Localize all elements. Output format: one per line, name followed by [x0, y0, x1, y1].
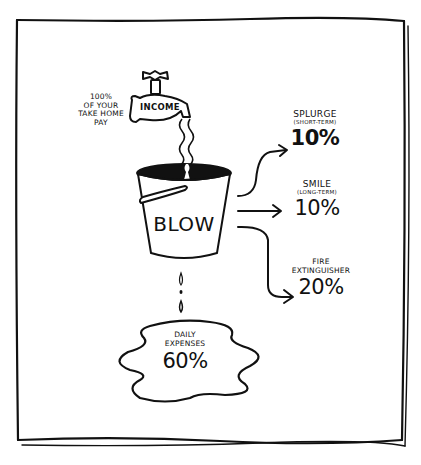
- output-smile: SMILE (LONG-TERM) 10%: [286, 179, 348, 220]
- drip-icon: [180, 273, 183, 312]
- tap-label: INCOME: [138, 103, 182, 113]
- leak-value: 60%: [150, 349, 220, 373]
- output-value: 10%: [286, 196, 348, 220]
- faucet-icon: [130, 71, 190, 122]
- output-splurge: SPLURGE (SHORT-TERM) 10%: [284, 109, 346, 150]
- output-subtitle: EXTINGUISHER: [282, 267, 360, 276]
- output-value: 10%: [284, 126, 346, 150]
- arrow-splurge: [238, 150, 286, 196]
- output-title: SPLURGE: [284, 109, 346, 119]
- income-note: 100% OF YOUR TAKE HOME PAY: [66, 93, 136, 128]
- output-value: 20%: [282, 275, 360, 299]
- bucket-icon: [137, 164, 231, 258]
- bucket-label: BLOW: [148, 213, 220, 236]
- output-fire: FIRE EXTINGUISHER 20%: [282, 258, 360, 299]
- leak-title-line: EXPENSES: [150, 340, 220, 349]
- output-title: SMILE: [286, 179, 348, 189]
- leak-label: DAILY EXPENSES 60%: [150, 331, 220, 373]
- income-note-line: PAY: [66, 119, 136, 128]
